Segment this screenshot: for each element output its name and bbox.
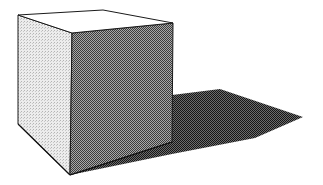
cube-illustration — [0, 0, 323, 185]
